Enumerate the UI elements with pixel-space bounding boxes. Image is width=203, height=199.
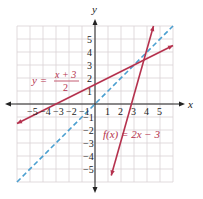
- x-tick-label: −5: [27, 106, 38, 117]
- x-tick-label: 5: [157, 106, 162, 117]
- x-tick-label: 2: [118, 106, 123, 117]
- y-tick-label: 4: [87, 47, 92, 58]
- x-tick-label: −4: [40, 106, 51, 117]
- x-axis-arrow-left-icon: [5, 102, 11, 107]
- y-tick-label: −5: [83, 164, 94, 175]
- y-axis-label: y: [91, 3, 97, 15]
- y-tick-label: −3: [83, 138, 94, 149]
- x-tick-label: 3: [131, 106, 136, 117]
- x-axis-arrow-icon: [179, 102, 185, 107]
- x-tick-label: 1: [105, 106, 110, 117]
- y-tick-label: −1: [83, 112, 94, 123]
- x-tick-label: 4: [144, 106, 149, 117]
- equation-label-inverse: y = x + 3 2: [31, 69, 79, 93]
- y-tick-label: −4: [83, 151, 94, 162]
- y-axis-arrow-down-icon: [93, 187, 98, 193]
- x-axis-label: x: [187, 98, 193, 110]
- x-tick-label: −3: [53, 106, 64, 117]
- eq1-numerator: x + 3: [54, 69, 76, 80]
- y-tick-label: −2: [83, 125, 94, 136]
- eq1-prefix: y =: [31, 74, 47, 86]
- function-graph: −5−4−3−2−11234554321−1−2−3−4−5 x y y = x…: [0, 0, 203, 199]
- y-axis-arrow-icon: [93, 19, 98, 25]
- eq1-denominator: 2: [63, 82, 68, 93]
- equation-label-f: f(x) = 2x − 3: [103, 128, 160, 141]
- x-tick-label: −2: [66, 106, 77, 117]
- y-tick-label: 2: [87, 73, 92, 84]
- y-tick-label: 1: [87, 86, 92, 97]
- y-tick-label: 5: [87, 34, 92, 45]
- y-tick-label: 3: [87, 60, 92, 71]
